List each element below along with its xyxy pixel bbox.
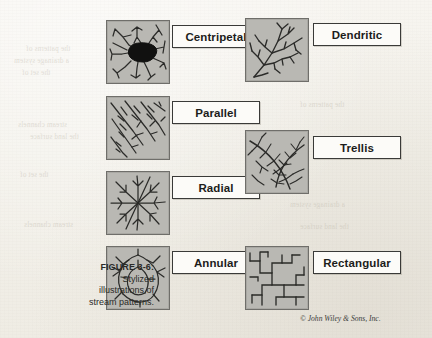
parallel-diagram [107,97,169,159]
panel-centripetal [106,20,170,84]
panel-radial [106,171,170,235]
label-text-radial: Radial [198,182,233,194]
panel-trellis [245,130,309,194]
caption-line-2: illustrations of [6,285,154,297]
label-text-rectangular: Rectangular [323,257,391,269]
central-basin [128,43,157,62]
figure-caption: FIGURE 3-6: Stylized illustrations of st… [6,262,154,308]
copyright-notice: © John Wiley & Sons, Inc. [300,314,381,323]
panel-rectangular [245,246,309,310]
label-trellis[interactable]: Trellis [313,136,401,159]
caption-line-3: stream patterns. [6,297,154,309]
dendritic-diagram [246,19,308,81]
label-rectangular[interactable]: Rectangular [313,251,401,274]
label-text-centripetal: Centripetal [185,31,246,43]
label-text-parallel: Parallel [195,107,237,119]
label-text-trellis: Trellis [340,142,374,154]
panel-parallel [106,96,170,160]
label-text-annular: Annular [194,257,238,269]
label-parallel[interactable]: Parallel [172,101,260,124]
label-text-dendritic: Dendritic [332,29,383,41]
centripetal-diagram [107,21,169,83]
caption-line-1: Stylized [6,274,154,286]
trellis-diagram [246,131,308,193]
panel-dendritic [245,18,309,82]
figure-number: FIGURE 3-6: [6,262,154,274]
rectangular-diagram [246,247,308,309]
radial-diagram [107,172,169,234]
label-dendritic[interactable]: Dendritic [313,23,401,46]
